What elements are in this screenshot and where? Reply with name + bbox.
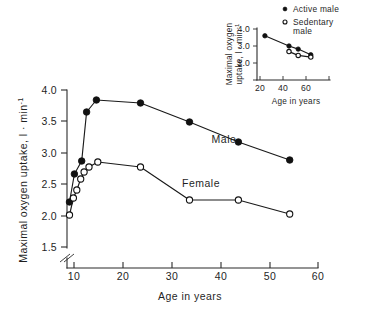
data-point-female	[235, 197, 241, 203]
main-ytick-0: 4.0	[42, 84, 58, 96]
main-ytick-2: 3.0	[42, 147, 58, 159]
figure-container: 4.0 3.5 3.0 2.5 2.0 1.5 10 20 30	[0, 0, 370, 312]
data-point-male	[71, 171, 78, 178]
main-xtick-4: 50	[264, 270, 276, 282]
main-y-ticks	[61, 90, 67, 247]
data-point-male	[93, 97, 100, 104]
data-point-sedentary-male	[309, 55, 313, 59]
main-xtick-1: 20	[117, 270, 129, 282]
svg-text:uptake, l · min-1: uptake, l · min-1	[234, 23, 244, 84]
inset-y-axis-title-text1: Maximal oxygen	[225, 22, 234, 85]
data-point-male	[83, 109, 90, 116]
series-male-line	[70, 100, 290, 202]
series-female-line	[70, 162, 290, 215]
main-y-axis-title-text: Maximal oxygen uptake, l · min	[17, 105, 29, 263]
data-point-male	[186, 119, 193, 126]
data-point-female	[287, 211, 293, 217]
inset-plot: 4.0 3.0 2.0 20 40 60 Age in years Maxima…	[225, 4, 339, 106]
main-ytick-5: 1.5	[42, 241, 58, 253]
main-x-ticks	[74, 262, 318, 268]
series-label-male: Male	[212, 133, 237, 145]
data-point-active-male	[287, 44, 291, 48]
inset-y-axis-title-sup: -1	[234, 23, 240, 29]
data-point-female	[137, 164, 143, 170]
inset-xtick-0: 20	[255, 83, 265, 93]
main-xtick-3: 40	[215, 270, 227, 282]
data-point-female	[78, 176, 84, 182]
data-point-sedentary-male	[296, 53, 300, 57]
main-xtick-0: 10	[68, 270, 80, 282]
main-ytick-1: 3.5	[42, 115, 58, 127]
main-y-axis-title-sup: -1	[16, 97, 25, 104]
data-point-female	[70, 195, 76, 201]
inset-xtick-1: 40	[278, 83, 288, 93]
series-female	[66, 159, 292, 218]
main-xtick-5: 60	[312, 270, 324, 282]
data-point-female	[66, 212, 72, 218]
main-ytick-4: 2.0	[42, 210, 58, 222]
main-plot: 4.0 3.5 3.0 2.5 2.0 1.5 10 20 30	[16, 84, 324, 302]
inset-x-ticks	[260, 76, 329, 80]
svg-text:Maximal oxygen uptake, l ·: Maximal oxygen uptake, l · min-1	[16, 97, 29, 263]
inset-y-axis-title-line2: uptake, l · min-1	[234, 23, 244, 84]
main-x-axis-title: Age in years	[158, 290, 222, 302]
chart-svg: 4.0 3.5 3.0 2.5 2.0 1.5 10 20 30	[0, 0, 370, 312]
legend-label-sedentary-male-line2: male	[293, 26, 312, 36]
inset-x-axis-title: Age in years	[272, 97, 321, 106]
data-point-female	[95, 159, 101, 165]
data-point-female	[186, 197, 192, 203]
legend-marker-active-male-icon	[283, 7, 287, 11]
data-point-male	[137, 100, 144, 107]
data-point-sedentary-male	[287, 49, 291, 53]
data-point-male	[286, 157, 293, 164]
data-point-male	[78, 158, 85, 165]
data-point-active-male	[263, 34, 267, 38]
inset-y-ticks	[253, 29, 257, 80]
series-male	[66, 97, 293, 206]
legend-label-active-male: Active male	[293, 4, 339, 14]
main-y-axis-title: Maximal oxygen uptake, l · min-1	[16, 97, 29, 263]
data-point-female	[81, 169, 87, 175]
inset-xtick-2: 60	[301, 83, 311, 93]
data-point-female	[74, 187, 80, 193]
data-point-female	[86, 164, 92, 170]
main-ytick-3: 2.5	[42, 178, 58, 190]
inset-y-axis-title-line1: Maximal oxygen	[225, 22, 234, 85]
main-xtick-2: 30	[166, 270, 178, 282]
inset-legend: Active male Sedentary male	[283, 4, 339, 36]
data-point-active-male	[296, 47, 300, 51]
inset-y-axis-title-text2: uptake, l · min	[235, 29, 244, 84]
series-label-female: Female	[182, 177, 220, 189]
legend-marker-sedentary-male-icon	[283, 20, 287, 24]
